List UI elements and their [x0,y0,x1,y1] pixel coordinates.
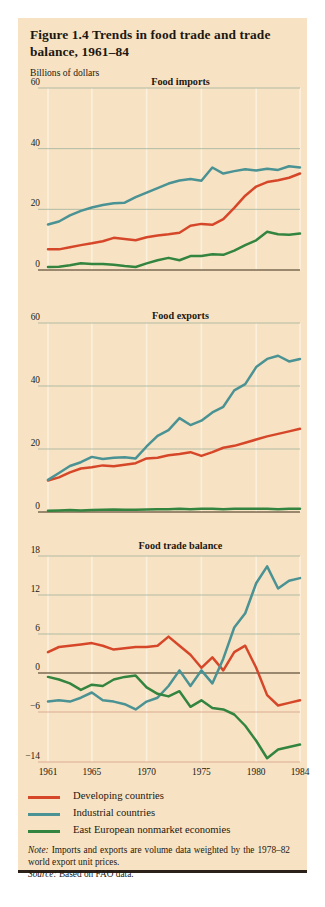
y-tick-label: −6 [14,701,40,711]
note-text: Imports and exports are volume data weig… [28,845,290,867]
legend-item: Developing countries [28,790,288,807]
figure-notes: Note: Imports and exports are volume dat… [28,845,290,880]
x-tick-label: 1970 [127,767,167,777]
legend-item: East European nonmarket economies [28,824,288,841]
legend-swatch-easteuropean [28,830,60,833]
legend-label-easteuropean: East European nonmarket economies [73,824,230,835]
source-label: Source: [28,869,57,879]
source-text: Based on FAO data. [59,869,134,879]
x-tick-label: 1975 [181,767,221,777]
y-tick-label: 18 [14,545,40,555]
note-label: Note: [28,845,49,855]
x-tick-label: 1984 [280,767,320,777]
legend-item: Industrial countries [28,807,288,824]
legend-label-industrial: Industrial countries [73,807,155,818]
series-line-3 [48,676,300,759]
y-tick-label: 6 [14,623,40,633]
x-tick-label: 1961 [28,767,68,777]
legend-swatch-industrial [28,813,60,816]
y-tick-label: 0 [14,662,40,672]
note-line: Note: Imports and exports are volume dat… [28,845,290,869]
legend-label-developing: Developing countries [73,790,164,801]
y-tick-label: −14 [14,751,40,761]
y-tick-label: 12 [14,584,40,594]
x-tick-label: 1965 [72,767,112,777]
legend-swatch-developing [28,796,60,799]
x-tick-label: 1980 [236,767,276,777]
chart-legend: Developing countries Industrial countrie… [28,790,288,841]
source-line: Source: Based on FAO data. [28,869,290,881]
